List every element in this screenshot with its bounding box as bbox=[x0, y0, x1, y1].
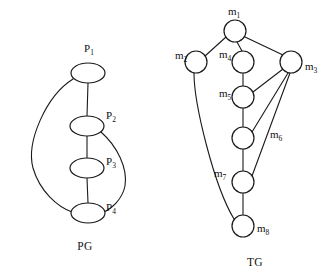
node-label-m5: m5 bbox=[219, 87, 232, 102]
node-label-p2: P2 bbox=[106, 109, 116, 124]
graph-edge-m1-m4 bbox=[237, 42, 242, 51]
node-label-m1: m1 bbox=[228, 5, 241, 20]
graph-edge-m1-m3 bbox=[245, 37, 283, 55]
captions-layer: PGTG bbox=[77, 240, 263, 268]
graph-node-p3[interactable] bbox=[70, 158, 104, 178]
graph-edge-p2-p4 bbox=[101, 132, 125, 212]
graph-node-m8[interactable] bbox=[232, 215, 254, 237]
node-label-m2: m2 bbox=[175, 49, 188, 64]
graph-edge-p1-p4 bbox=[32, 79, 73, 212]
node-label-p4: P4 bbox=[106, 201, 116, 216]
graph-edge-p3-p4 bbox=[87, 178, 88, 203]
figure-canvas: P1P2P3P4m1m2m3m4m5m6m7m8 PGTG bbox=[0, 0, 328, 279]
graph-node-m6[interactable] bbox=[232, 127, 254, 149]
graph-node-m5[interactable] bbox=[232, 86, 254, 108]
graph-edge-m6-m3 bbox=[252, 73, 288, 132]
node-label-m3: m3 bbox=[305, 60, 318, 75]
graph-node-m4[interactable] bbox=[232, 51, 254, 73]
graph-node-m2[interactable] bbox=[185, 51, 207, 73]
graph-node-m7[interactable] bbox=[232, 171, 254, 193]
graph-node-p1[interactable] bbox=[71, 63, 105, 83]
node-label-m4: m4 bbox=[219, 48, 232, 63]
nodes-layer bbox=[70, 20, 302, 237]
graph-node-p4[interactable] bbox=[71, 203, 105, 223]
graph-figure-svg: P1P2P3P4m1m2m3m4m5m6m7m8 PGTG bbox=[0, 0, 328, 279]
graph-node-m1[interactable] bbox=[224, 20, 246, 42]
node-label-p3: P3 bbox=[106, 155, 116, 170]
node-label-p1: P1 bbox=[84, 42, 94, 57]
graph-edge-p1-p2 bbox=[87, 83, 88, 116]
graph-caption-pg: PG bbox=[77, 240, 92, 252]
graph-caption-tg: TG bbox=[247, 256, 263, 268]
graph-node-m3[interactable] bbox=[280, 51, 302, 73]
node-label-m8: m8 bbox=[257, 222, 270, 237]
node-label-m7: m7 bbox=[214, 167, 227, 182]
node-label-m6: m6 bbox=[270, 128, 283, 143]
graph-node-p2[interactable] bbox=[70, 116, 104, 136]
